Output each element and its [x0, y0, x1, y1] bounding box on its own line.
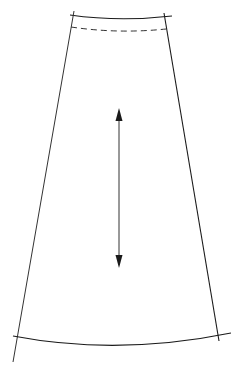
waistband-fold-dashed-line: [71, 27, 166, 31]
waist-seam-line: [70, 15, 172, 19]
pattern-piece-diagram: [0, 0, 241, 385]
right-side-seam: [164, 13, 219, 341]
left-side-seam: [13, 11, 74, 362]
grain-line-arrow-icon: [116, 108, 123, 268]
hem-line: [13, 333, 231, 345]
